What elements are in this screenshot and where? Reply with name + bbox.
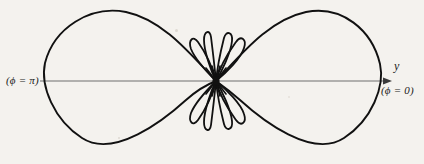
- scan-speck: [175, 29, 178, 32]
- scan-speck: [118, 137, 120, 139]
- polar-plot-canvas: [0, 0, 424, 164]
- scan-speck: [288, 96, 290, 98]
- phi-pi-label: (ϕ = π): [6, 74, 39, 86]
- radiation-pattern-figure: (ϕ = π) (ϕ = 0) y: [0, 0, 424, 164]
- phi-zero-label: (ϕ = 0): [381, 84, 414, 96]
- main-lobe-left: [44, 11, 216, 144]
- y-axis-label: y: [394, 59, 400, 74]
